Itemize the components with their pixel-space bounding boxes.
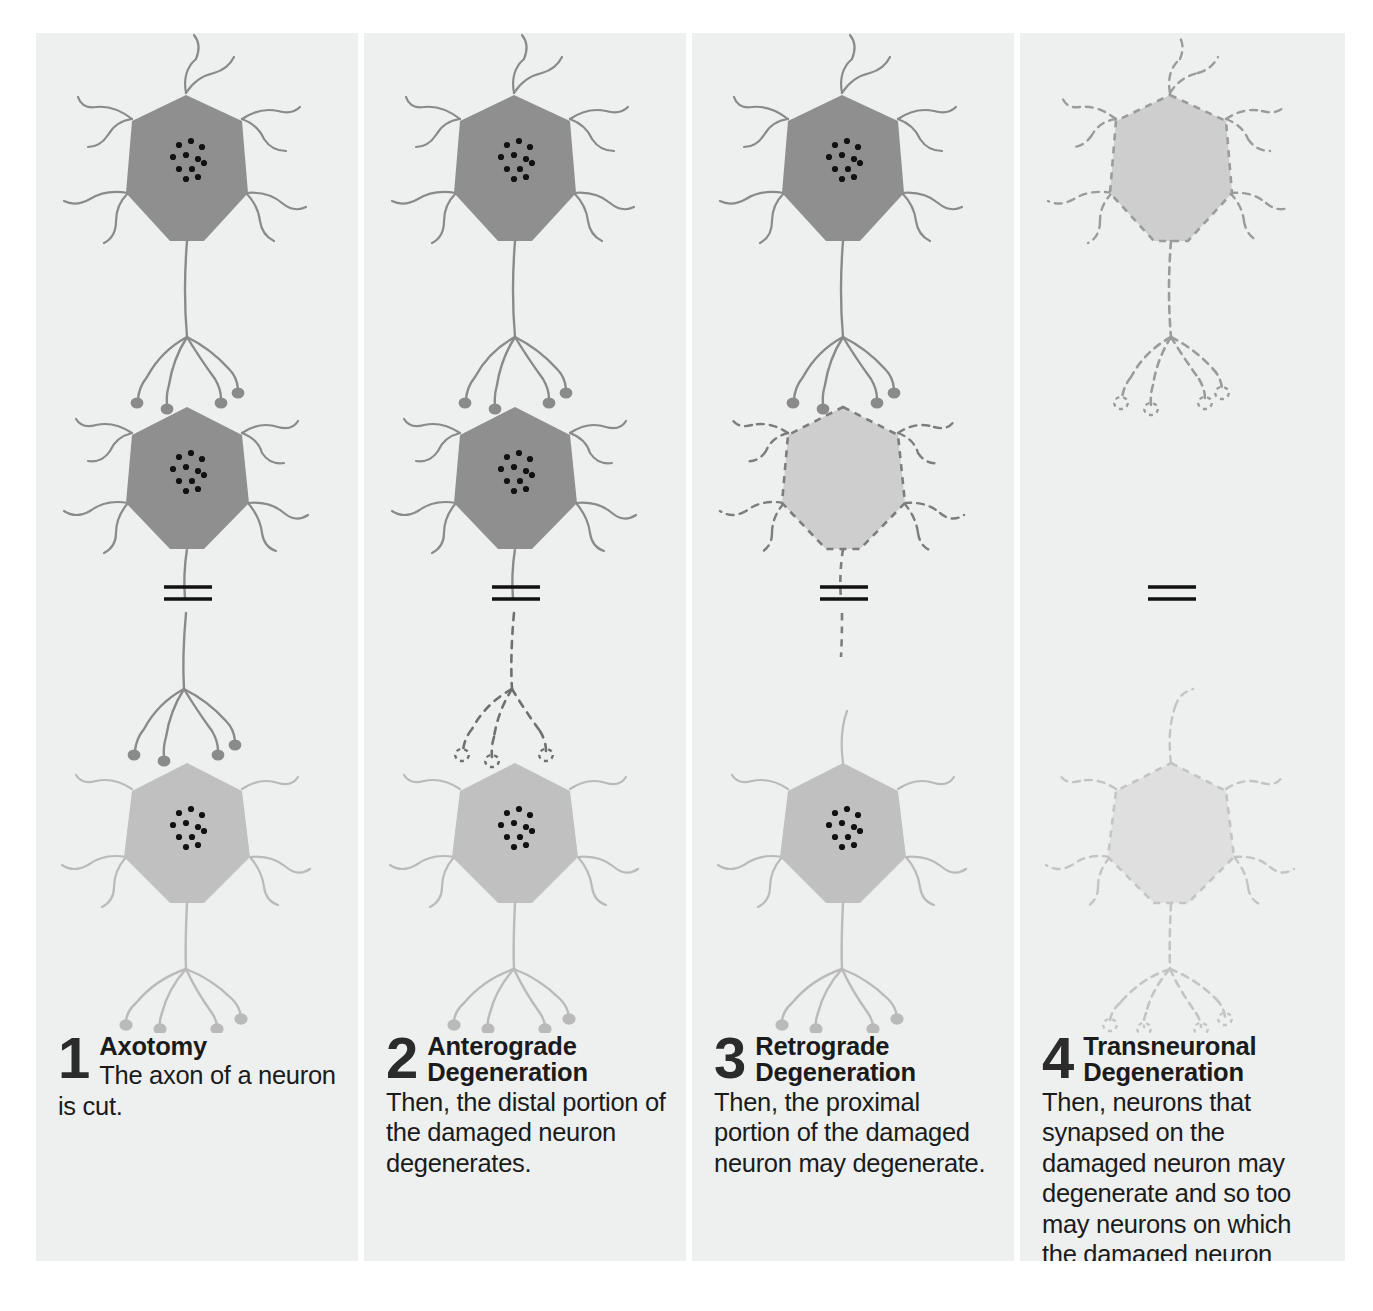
panel-3-illustration: [692, 33, 1014, 1033]
axon-proximal-degenerating: [840, 549, 843, 657]
panel-2-caption: 2 Anterograde Degeneration Then, the dis…: [386, 1033, 672, 1178]
bottom-neuron-group-degenerating: [1046, 689, 1294, 1033]
panel-2-illustration: [364, 33, 686, 1033]
bottom-neuron-group: [390, 763, 638, 1033]
soma: [782, 95, 904, 241]
panel-3-body: Then, the proximal portion of the damage…: [714, 1087, 1000, 1179]
panel-1-caption: 1 Axotomy The axon of a neuron is cut.: [58, 1033, 344, 1121]
soma: [452, 763, 578, 903]
panel-4-title: Transneuronal Degeneration: [1042, 1033, 1331, 1086]
soma: [126, 407, 249, 549]
middle-neuron-group-degenerating: [720, 407, 964, 657]
middle-neuron-group: [64, 407, 308, 767]
soma: [454, 95, 576, 241]
cut-mark-icon: [1148, 587, 1196, 599]
top-neuron-group: [392, 35, 634, 415]
panel-4-caption: 4 Transneuronal Degeneration Then, neuro…: [1042, 1033, 1331, 1261]
cut-mark-icon: [820, 587, 868, 599]
panel-1-body: The axon of a neuron is cut.: [58, 1060, 344, 1121]
middle-neuron-group: [392, 407, 636, 767]
bottom-neuron-group: [62, 763, 310, 1033]
axon-proximal: [184, 549, 187, 599]
panel-4-body: Then, neurons that synapsed on the damag…: [1042, 1087, 1331, 1262]
panel-1-illustration: [36, 33, 358, 1033]
neuronal-degeneration-figure: 1 Axotomy The axon of a neuron is cut.: [0, 0, 1373, 1311]
panel-axotomy: 1 Axotomy The axon of a neuron is cut.: [36, 33, 358, 1261]
soma: [124, 763, 250, 903]
soma: [454, 407, 577, 549]
axon-terminals-middle-degenerating: [455, 749, 553, 767]
panel-4-number: 4: [1042, 1035, 1074, 1080]
top-neuron-group-degenerating: [1048, 35, 1290, 415]
panel-3-caption: 3 Retrograde Degeneration Then, the prox…: [714, 1033, 1000, 1178]
soma: [1108, 763, 1234, 903]
soma: [1110, 95, 1232, 241]
panel-2-number: 2: [386, 1035, 418, 1080]
axon-terminals-bottom: [775, 1013, 903, 1033]
panel-retrograde-degeneration: 3 Retrograde Degeneration Then, the prox…: [692, 33, 1014, 1261]
panel-1-title: Axotomy: [58, 1033, 344, 1059]
cut-mark-icon: [164, 587, 212, 599]
middle-neuron-absent: [1148, 587, 1196, 599]
soma: [780, 763, 906, 903]
panel-3-number: 3: [714, 1035, 746, 1080]
soma: [782, 407, 905, 549]
axon-proximal: [512, 549, 515, 599]
bottom-neuron-group: [718, 711, 966, 1033]
axon-distal-degenerating: [463, 613, 546, 757]
cut-mark-icon: [492, 587, 540, 599]
axon-terminals-bottom: [447, 1013, 575, 1033]
panel-4-illustration: [1020, 33, 1345, 1033]
axon-terminals-top-degenerating: [1114, 387, 1229, 415]
panel-3-title: Retrograde Degeneration: [714, 1033, 1000, 1086]
top-neuron-group: [720, 35, 962, 415]
top-neuron-group: [64, 35, 306, 415]
panel-2-body: Then, the distal portion of the damaged …: [386, 1087, 672, 1179]
panel-transneuronal-degeneration: 4 Transneuronal Degeneration Then, neuro…: [1020, 33, 1345, 1261]
axon-terminals-middle: [128, 739, 242, 766]
panel-anterograde-degeneration: 2 Anterograde Degeneration Then, the dis…: [364, 33, 686, 1261]
axon-terminals-bottom: [119, 1013, 247, 1033]
soma: [126, 95, 248, 241]
panel-1-number: 1: [58, 1035, 90, 1080]
panel-2-title: Anterograde Degeneration: [386, 1033, 672, 1086]
axon-terminals-bottom-degenerating: [1103, 1013, 1232, 1033]
axon-distal: [135, 613, 235, 757]
